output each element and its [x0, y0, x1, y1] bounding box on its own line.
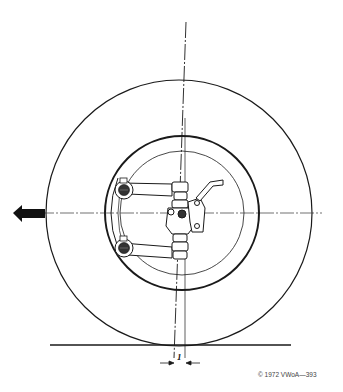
- upper-trailing-arm: [115, 178, 172, 199]
- direction-arrow-icon: [13, 205, 45, 222]
- wheel-diagram: [0, 0, 343, 392]
- offset-dimension-label: 1: [177, 352, 182, 362]
- lower-trailing-arm: [115, 236, 172, 258]
- steering-knuckle: [166, 180, 223, 259]
- copyright-caption: © 1972 VWoA—393: [258, 371, 317, 378]
